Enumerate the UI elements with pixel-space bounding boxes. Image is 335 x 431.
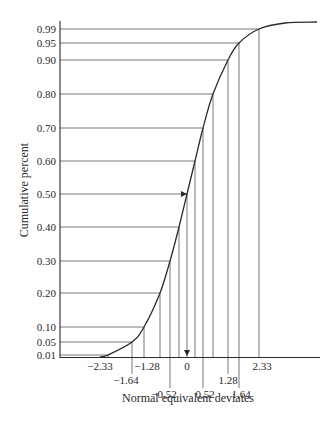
horizontal-guide-lines — [60, 29, 259, 355]
y-tick-label: 0.01 — [37, 349, 56, 361]
y-tick-label: 0.40 — [37, 221, 57, 233]
y-tick-label: 0.10 — [37, 321, 57, 333]
chart-figure: 0.010.050.100.200.300.400.500.600.700.80… — [0, 0, 335, 431]
chart-canvas: 0.010.050.100.200.300.400.500.600.700.80… — [0, 0, 335, 431]
y-tick-label: 0.30 — [37, 255, 57, 267]
x-tick-label: −1.64 — [113, 374, 139, 386]
x-tick-label: −1.28 — [134, 360, 160, 372]
x-tick-label: −2.33 — [87, 360, 113, 372]
y-tick-label: 0.99 — [37, 23, 57, 35]
y-tick-label: 0.70 — [37, 122, 57, 134]
y-tick-label: 0.95 — [37, 37, 57, 49]
y-tick-label: 0.90 — [37, 54, 57, 66]
x-tick-label: 2.33 — [252, 360, 272, 372]
x-tick-label: 1.28 — [218, 374, 238, 386]
y-tick-label: 0.50 — [37, 188, 57, 200]
x-tick-label: 0 — [184, 360, 190, 372]
y-tick-label: 0.60 — [37, 155, 57, 167]
y-tick-label: 0.05 — [37, 336, 57, 348]
x-axis-title: Normal equivalent deviates — [122, 391, 254, 405]
y-axis-title: Cumulative percent — [17, 142, 31, 237]
y-tick-label: 0.20 — [37, 287, 57, 299]
y-tick-label: 0.80 — [37, 88, 57, 100]
y-tick-labels: 0.010.050.100.200.300.400.500.600.700.80… — [37, 23, 57, 361]
cumulative-curve — [100, 22, 317, 357]
arrow-down-icon — [184, 350, 190, 356]
